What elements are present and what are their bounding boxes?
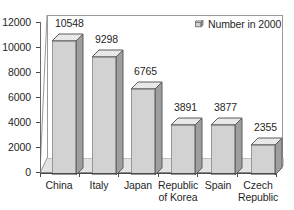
bar-republic-of-korea[interactable] <box>171 112 205 175</box>
x-tick-label-republic-of-korea-line-1: Republic <box>154 180 202 192</box>
bar-value-czech-republic: 2355 <box>254 122 277 133</box>
bar-value-republic-of-korea: 3891 <box>174 102 197 113</box>
x-tick-mark-0 <box>40 173 41 177</box>
x-tick-mark-4 <box>197 173 198 177</box>
bar-value-japan: 6765 <box>134 66 157 77</box>
bar-value-italy: 9298 <box>95 34 118 45</box>
bar-japan[interactable] <box>131 76 165 175</box>
bar-value-spain: 3877 <box>214 102 237 113</box>
legend: Number in 2000 <box>193 18 283 31</box>
x-tick-label-republic-of-korea: Republic of Korea <box>154 180 202 203</box>
x-tick-mark-2 <box>118 173 119 177</box>
x-tick-label-czech-republic-line-2: Republic <box>233 192 283 204</box>
x-tick-mark-5 <box>237 173 238 177</box>
bar-china[interactable] <box>52 28 86 175</box>
x-tick-label-republic-of-korea-line-2: of Korea <box>154 192 202 204</box>
legend-swatch-icon <box>195 20 204 28</box>
bar-czech-republic[interactable] <box>251 132 285 175</box>
legend-label: Number in 2000 <box>208 19 281 30</box>
x-tick-mark-3 <box>158 173 159 177</box>
x-tick-label-china: China <box>37 180 81 192</box>
bar-chart: 12000 10000 8000 6000 4000 2000 0 10548 … <box>0 0 294 210</box>
x-tick-label-china-line-1: China <box>37 180 81 192</box>
x-tick-mark-1 <box>79 173 80 177</box>
x-tick-mark-6 <box>276 173 277 177</box>
bar-spain[interactable] <box>211 112 245 175</box>
x-tick-label-italy-line-1: Italy <box>77 180 121 192</box>
bar-value-china: 10548 <box>55 18 84 29</box>
x-tick-label-czech-republic: Czech Republic <box>233 180 283 203</box>
bar-italy[interactable] <box>92 44 126 175</box>
x-tick-label-czech-republic-line-1: Czech <box>233 180 283 192</box>
x-tick-label-italy: Italy <box>77 180 121 192</box>
